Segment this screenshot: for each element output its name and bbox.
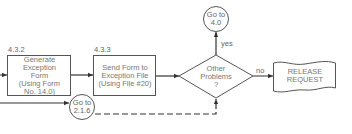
connector-line: 2.1.6 — [74, 107, 91, 115]
process-text-4-3-2: Generate Exception Form (Using Form No. … — [8, 56, 71, 96]
process-line: No. 14.0) — [24, 88, 55, 96]
decision-text: Other Problems ? — [190, 62, 242, 92]
process-text-4-3-3: Send Form to Exception File (Using File … — [94, 56, 156, 96]
process-id-4-3-3: 4.3.3 — [94, 46, 111, 54]
decision-line: ? — [214, 81, 218, 89]
document-line: REQUEST — [287, 76, 323, 84]
process-id-4-3-2: 4.3.2 — [8, 46, 25, 54]
process-line: (Using File #20) — [99, 80, 152, 88]
connector-text-4-0: Go to 4.0 — [204, 8, 228, 30]
document-text: RELEASE REQUEST — [274, 63, 336, 89]
connector-line: 4.0 — [211, 19, 221, 27]
edge-label-yes: yes — [221, 40, 233, 48]
edge-label-no: no — [256, 67, 264, 75]
connector-text-2-1-6: Go to 2.1.6 — [70, 96, 94, 118]
dashed-return-line — [95, 99, 216, 114]
